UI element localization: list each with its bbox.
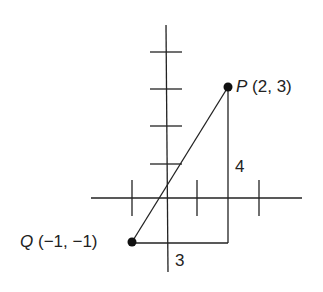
horizontal-leg-label: 3 bbox=[175, 252, 184, 269]
coordinate-diagram: P (2, 3) Q (−1, −1) 4 3 bbox=[0, 0, 323, 292]
point-p-label: P (2, 3) bbox=[236, 78, 292, 95]
point-q-label: Q (−1, −1) bbox=[20, 233, 98, 250]
point-q bbox=[128, 238, 137, 247]
vertical-leg-label: 4 bbox=[235, 158, 244, 175]
point-p bbox=[224, 83, 233, 92]
segment-pq bbox=[132, 87, 228, 242]
y-axis bbox=[166, 25, 168, 272]
